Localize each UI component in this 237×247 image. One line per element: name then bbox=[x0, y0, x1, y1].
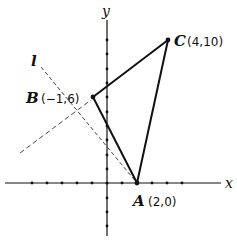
line-l-label: l bbox=[31, 52, 37, 70]
dashed-line-l bbox=[41, 67, 137, 183]
point-a bbox=[135, 181, 140, 186]
dashed-line-to-b bbox=[20, 100, 91, 153]
point-b bbox=[91, 95, 96, 100]
y-axis-label: y bbox=[101, 3, 111, 19]
point-c-coords: (4,10) bbox=[187, 35, 223, 49]
point-b-name: B bbox=[25, 89, 39, 107]
point-b-coords: (−1,6) bbox=[41, 92, 80, 106]
point-a-coords: (2,0) bbox=[148, 195, 176, 209]
coordinate-diagram: y x l C (4,10) B (−1,6) A (2,0) bbox=[0, 0, 237, 247]
point-c bbox=[166, 38, 171, 43]
side-ca bbox=[137, 40, 168, 183]
side-ab bbox=[93, 97, 137, 183]
point-a-name: A bbox=[131, 192, 145, 210]
x-axis-label: x bbox=[225, 175, 233, 191]
triangle-abc bbox=[93, 40, 168, 183]
point-c-name: C bbox=[174, 32, 186, 50]
